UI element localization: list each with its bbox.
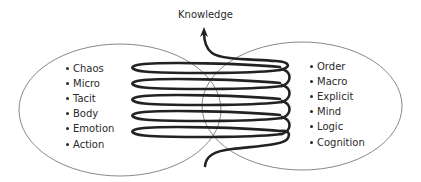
bullet-icon	[310, 65, 313, 68]
bullet-icon	[310, 80, 313, 83]
left-item-label: Emotion	[73, 123, 114, 134]
right-item-label: Explicit	[317, 91, 353, 102]
right-item-label: Macro	[317, 76, 347, 87]
spiral	[132, 32, 289, 166]
bullet-icon	[66, 112, 69, 115]
left-item-body: Body	[66, 108, 98, 120]
right-item-label: Order	[317, 61, 345, 72]
right-item-label: Cognition	[317, 137, 365, 148]
left-item-label: Action	[73, 139, 104, 150]
bullet-icon	[66, 127, 69, 130]
right-item-explicit: Explicit	[310, 91, 353, 103]
right-item-logic: Logic	[310, 121, 343, 133]
left-item-action: Action	[66, 139, 104, 151]
right-item-label: Mind	[317, 106, 341, 117]
left-item-micro: Micro	[66, 78, 100, 90]
left-item-label: Micro	[73, 78, 100, 89]
right-item-label: Logic	[317, 121, 343, 132]
bullet-icon	[66, 82, 69, 85]
left-item-tacit: Tacit	[66, 93, 96, 105]
left-item-emotion: Emotion	[66, 123, 114, 135]
diagram-title: Knowledge	[178, 9, 233, 20]
right-item-mind: Mind	[310, 106, 341, 118]
left-item-label: Chaos	[73, 63, 104, 74]
left-item-label: Tacit	[73, 93, 96, 104]
bullet-icon	[310, 95, 313, 98]
bullet-icon	[66, 67, 69, 70]
bullet-icon	[310, 125, 313, 128]
right-item-cognition: Cognition	[310, 137, 365, 149]
left-item-chaos: Chaos	[66, 63, 104, 75]
bullet-icon	[310, 141, 313, 144]
knowledge-spiral-diagram: Knowledge Chaos Micro Tacit Body Emotion…	[0, 0, 421, 182]
bullet-icon	[66, 97, 69, 100]
right-item-order: Order	[310, 61, 345, 73]
right-item-macro: Macro	[310, 76, 347, 88]
diagram-canvas	[0, 0, 421, 182]
left-item-label: Body	[73, 108, 98, 119]
bullet-icon	[66, 143, 69, 146]
bullet-icon	[310, 110, 313, 113]
